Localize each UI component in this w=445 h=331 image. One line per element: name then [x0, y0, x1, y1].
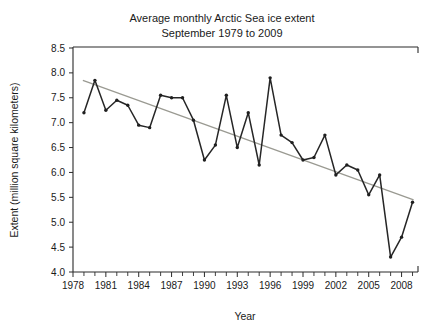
data-point [323, 133, 326, 136]
x-tick-label: 1987 [160, 280, 183, 291]
y-tick-label: 6.0 [51, 167, 65, 178]
y-tick-label: 4.5 [51, 242, 65, 253]
data-point [345, 163, 348, 166]
data-point [148, 126, 151, 129]
y-tick-label: 7.5 [51, 92, 65, 103]
chart-figure: Average monthly Arctic Sea ice extent Se… [0, 0, 445, 331]
x-tick-label: 1990 [193, 280, 216, 291]
y-tick-label: 5.0 [51, 217, 65, 228]
y-tick-label: 5.5 [51, 192, 65, 203]
y-tick-label: 6.5 [51, 142, 65, 153]
chart-subtitle: September 1979 to 2009 [161, 27, 282, 39]
data-point [126, 104, 129, 107]
y-tick-label: 8.5 [51, 43, 65, 54]
y-tick-label: 7.0 [51, 117, 65, 128]
data-point [225, 94, 228, 97]
data-point [93, 79, 96, 82]
x-tick-label: 2002 [325, 280, 348, 291]
data-point [236, 146, 239, 149]
chart-title: Average monthly Arctic Sea ice extent [129, 12, 314, 24]
data-point [247, 111, 250, 114]
data-point [115, 99, 118, 102]
y-tick-label: 8.0 [51, 67, 65, 78]
data-point [356, 168, 359, 171]
data-point [290, 141, 293, 144]
data-point [312, 156, 315, 159]
data-point [411, 201, 414, 204]
data-point [82, 111, 85, 114]
x-tick-label: 1999 [292, 280, 315, 291]
data-point [159, 94, 162, 97]
x-tick-label: 1996 [259, 280, 282, 291]
data-point [389, 255, 392, 258]
x-tick-label: 2005 [358, 280, 381, 291]
data-point [378, 173, 381, 176]
y-axis-title: Extent (million square kilometers) [8, 82, 20, 237]
arctic-sea-ice-extent-line-chart: Average monthly Arctic Sea ice extent Se… [0, 0, 445, 331]
data-point [203, 158, 206, 161]
x-tick-label: 1984 [128, 280, 151, 291]
data-point [400, 235, 403, 238]
data-point [257, 163, 260, 166]
data-point [104, 109, 107, 112]
x-tick-label: 1978 [62, 280, 85, 291]
data-point [279, 133, 282, 136]
data-point [268, 76, 271, 79]
data-point [170, 96, 173, 99]
x-tick-label: 1981 [95, 280, 118, 291]
data-point [334, 173, 337, 176]
data-point [367, 193, 370, 196]
data-point [192, 118, 195, 121]
x-tick-label: 1993 [226, 280, 249, 291]
x-axis-title: Year [234, 310, 256, 322]
x-tick-label: 2008 [390, 280, 413, 291]
data-point [301, 158, 304, 161]
data-point [137, 123, 140, 126]
y-tick-label: 4.0 [51, 267, 65, 278]
data-point [181, 96, 184, 99]
data-point [214, 143, 217, 146]
